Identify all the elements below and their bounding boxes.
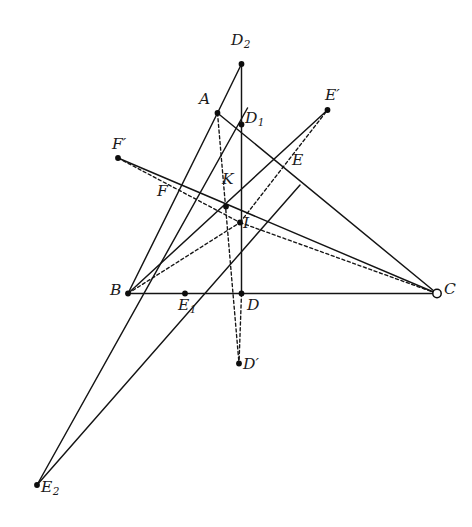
- geometry-canvas: [0, 0, 472, 527]
- label-base-A: A: [199, 90, 210, 108]
- point-label-Dp: D′: [243, 357, 259, 373]
- label-base-C: C: [444, 280, 456, 298]
- label-base-B: B: [110, 281, 121, 299]
- line-E2-through-E1: [37, 185, 300, 485]
- label-prime-Fp: ′: [123, 135, 127, 153]
- cevian-B-Eprime: [128, 110, 328, 294]
- vertex-marker-Fp: [115, 155, 121, 161]
- point-label-C: C: [444, 282, 456, 298]
- vertex-marker-A: [215, 110, 221, 116]
- point-label-K: K: [222, 172, 234, 188]
- label-base-I: I: [243, 214, 249, 232]
- label-base-F: F: [157, 182, 168, 200]
- point-label-E2: E2: [41, 480, 59, 496]
- point-label-D: D: [247, 298, 259, 314]
- label-subscript-D1: 1: [258, 116, 265, 128]
- label-base-Fp: F: [112, 135, 123, 153]
- label-subscript-E1: 1: [190, 303, 197, 315]
- label-base-E2: E: [41, 478, 52, 496]
- vertex-marker-K: [223, 204, 229, 210]
- point-label-B: B: [110, 283, 121, 299]
- label-base-E: E: [292, 151, 303, 169]
- label-base-D1: D: [245, 109, 257, 127]
- label-base-E1: E: [178, 296, 189, 314]
- cevian-I-C: [240, 223, 437, 294]
- cevian-C-Fprime: [118, 158, 437, 294]
- label-base-Dp: D: [243, 355, 255, 373]
- geometry-figure: D2AE′D1F′EFKIBE1DCD′E2: [0, 0, 472, 527]
- point-label-I: I: [243, 216, 249, 232]
- cevian-A-Dprime: [218, 113, 240, 364]
- line-E2-up-right: [37, 108, 248, 485]
- segment-D-Dprime: [239, 294, 242, 364]
- point-label-F: F: [157, 184, 168, 200]
- vertex-marker-Ep: [325, 107, 331, 113]
- point-label-Ep: E′: [325, 88, 340, 104]
- label-prime-Dp: ′: [255, 355, 259, 373]
- point-label-A: A: [199, 92, 210, 108]
- point-label-D2: D2: [231, 33, 250, 49]
- label-base-D2: D: [231, 31, 243, 49]
- label-base-D: D: [247, 296, 259, 314]
- vertex-marker-D: [239, 291, 245, 297]
- segment-layer: [37, 64, 437, 485]
- vertex-marker-D2: [239, 61, 245, 67]
- point-label-E: E: [292, 153, 303, 169]
- cevian-A-D2: [218, 64, 242, 113]
- label-base-K: K: [222, 170, 234, 188]
- vertex-marker-D1: [239, 122, 245, 128]
- point-label-E1: E1: [178, 298, 196, 314]
- vertex-marker-C: [433, 289, 441, 297]
- vertex-marker-Dp: [236, 361, 242, 367]
- label-base-Ep: E: [325, 86, 336, 104]
- label-subscript-E2: 2: [53, 485, 60, 497]
- side-AC: [218, 113, 438, 294]
- label-subscript-D2: 2: [244, 38, 251, 50]
- label-prime-Ep: ′: [336, 86, 340, 104]
- point-label-Fp: F′: [112, 137, 126, 153]
- point-label-D1: D1: [245, 111, 264, 127]
- vertex-marker-B: [125, 291, 131, 297]
- vertex-marker-E2: [34, 482, 40, 488]
